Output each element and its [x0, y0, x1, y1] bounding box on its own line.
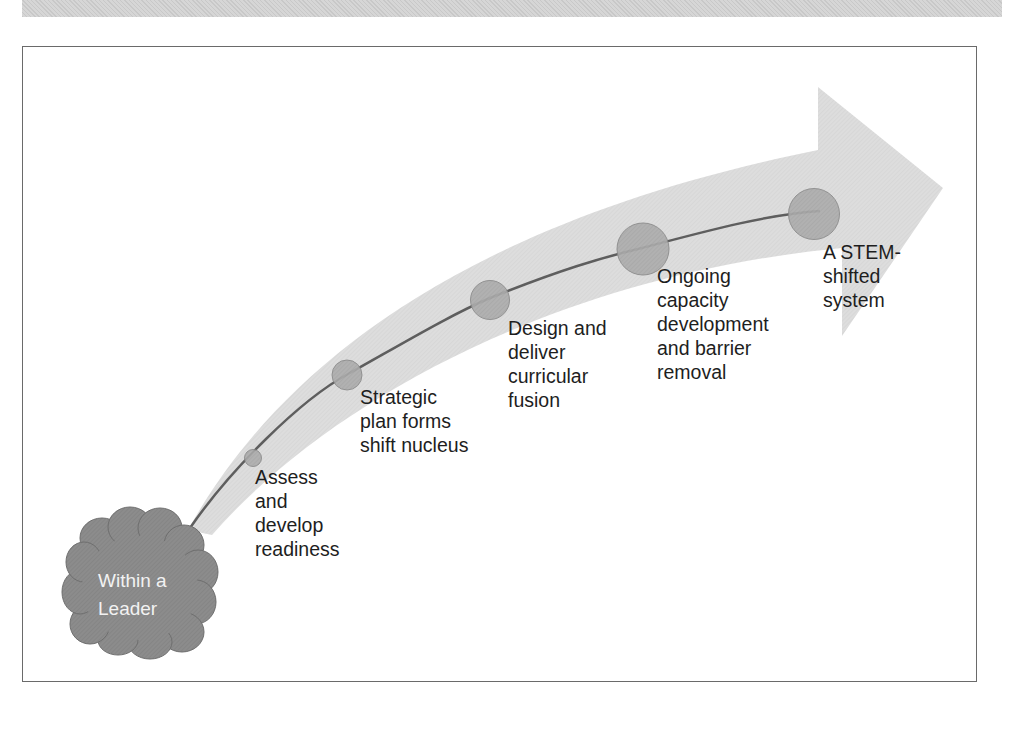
stage-marker-strategic-plan: [332, 360, 362, 390]
origin-label: Within a Leader: [98, 567, 167, 623]
stage-marker-assess: [245, 450, 262, 467]
stage-label-assess: Assess and develop readiness: [255, 465, 340, 561]
stage-marker-design-deliver: [471, 281, 510, 320]
stage-marker-stem-shifted: [789, 189, 840, 240]
stage-label-design-deliver: Design and deliver curricular fusion: [508, 316, 607, 412]
stage-label-strategic-plan: Strategic plan forms shift nucleus: [360, 385, 468, 457]
stage-label-ongoing-capacity: Ongoing capacity development and barrier…: [657, 264, 769, 384]
stage-label-stem-shifted: A STEM- shifted system: [823, 240, 901, 312]
